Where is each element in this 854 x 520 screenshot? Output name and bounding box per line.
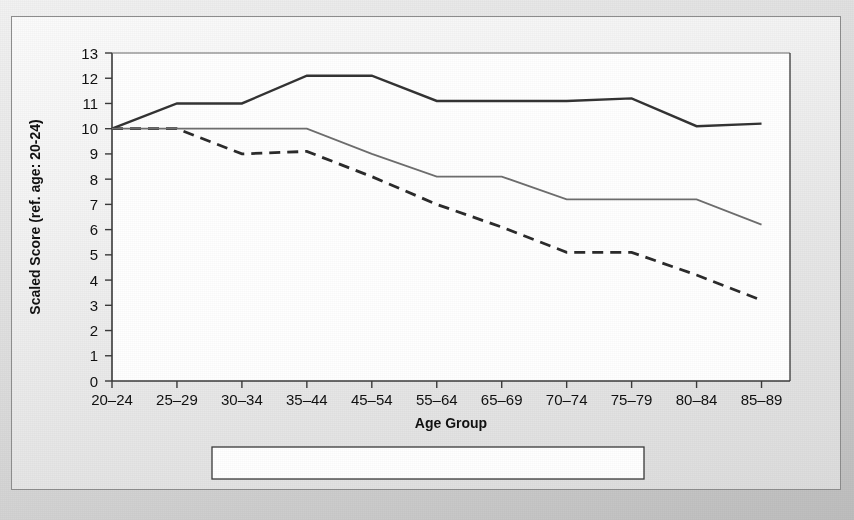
- y-tick-label: 10: [81, 120, 98, 137]
- y-tick-label: 3: [90, 297, 98, 314]
- x-tick-label: 80–84: [676, 391, 718, 408]
- x-tick-label: 75–79: [611, 391, 653, 408]
- y-tick-label: 9: [90, 145, 98, 162]
- y-tick-label: 7: [90, 196, 98, 213]
- y-axis-title: Scaled Score (ref. age: 20-24): [27, 119, 43, 314]
- y-tick-label: 0: [90, 373, 98, 390]
- y-axis-tick-labels: 012345678910111213: [81, 45, 98, 390]
- y-tick-label: 11: [82, 95, 98, 112]
- y-tick-label: 13: [81, 45, 98, 62]
- legend-box: [212, 447, 644, 479]
- x-tick-label: 55–64: [416, 391, 458, 408]
- y-tick-label: 8: [90, 171, 98, 188]
- y-tick-label: 12: [81, 70, 98, 87]
- plot-area-background: [112, 53, 790, 381]
- x-tick-label: 35–44: [286, 391, 328, 408]
- figure-page: 012345678910111213 20–2425–2930–3435–444…: [0, 0, 854, 520]
- y-axis-ticks: [105, 53, 112, 381]
- x-tick-label: 25–29: [156, 391, 198, 408]
- x-tick-label: 20–24: [91, 391, 133, 408]
- y-tick-label: 2: [90, 322, 98, 339]
- x-axis-title: Age Group: [415, 415, 487, 431]
- x-tick-label: 30–34: [221, 391, 263, 408]
- line-chart: 012345678910111213 20–2425–2930–3435–444…: [0, 0, 854, 520]
- x-axis-tick-labels: 20–2425–2930–3435–4445–5455–6465–6970–74…: [91, 391, 782, 408]
- x-axis-ticks: [112, 381, 762, 388]
- x-tick-label: 45–54: [351, 391, 393, 408]
- x-tick-label: 70–74: [546, 391, 588, 408]
- y-tick-label: 5: [90, 246, 98, 263]
- x-tick-label: 65–69: [481, 391, 523, 408]
- y-tick-label: 4: [90, 272, 98, 289]
- y-tick-label: 1: [90, 347, 98, 364]
- y-tick-label: 6: [90, 221, 98, 238]
- x-tick-label: 85–89: [741, 391, 783, 408]
- chart-legend: [212, 447, 644, 479]
